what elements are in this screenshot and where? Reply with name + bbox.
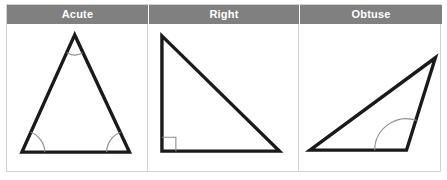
right-angle-square-icon [162, 137, 176, 151]
obtuse-triangle-outline [310, 58, 435, 150]
right-triangle-svg [148, 24, 297, 171]
column-header-acute: Acute [7, 5, 148, 24]
arc-bottom-left-icon [31, 132, 45, 152]
right-triangle-outline [162, 36, 279, 151]
triangle-classification-table: Acute Right Obtuse [6, 4, 441, 172]
arc-bottom-right-icon [107, 132, 121, 152]
arc-apex-icon [67, 53, 83, 55]
table-body-row [7, 24, 440, 171]
cell-acute-triangle [7, 24, 147, 171]
obtuse-triangle-svg [299, 24, 440, 171]
cell-obtuse-triangle [299, 24, 440, 171]
column-header-obtuse: Obtuse [300, 5, 442, 24]
table-header-row: Acute Right Obtuse [7, 5, 440, 24]
triangle-types-figure: Acute Right Obtuse [0, 0, 447, 180]
column-header-right: Right [149, 5, 299, 24]
acute-triangle-outline [22, 35, 129, 152]
acute-triangle-svg [7, 24, 147, 171]
cell-right-triangle [148, 24, 297, 171]
